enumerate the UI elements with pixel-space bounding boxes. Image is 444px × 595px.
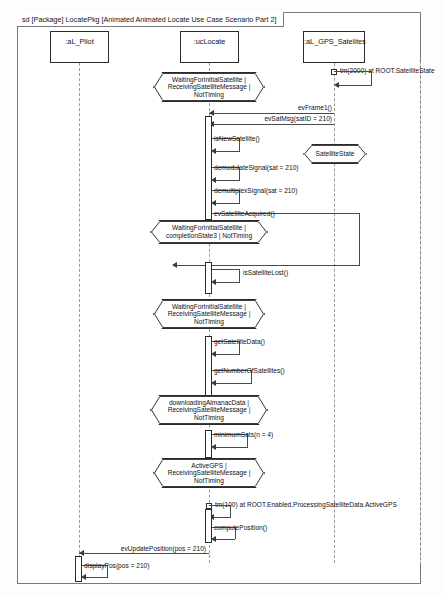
state-label-2: SatelliteState — [308, 150, 363, 158]
message-arrow-demultiplexsignal — [211, 200, 216, 206]
state-box-6: ActiveGPS | ReceivingSatelliteMessage | … — [153, 458, 265, 488]
state-box-4: WaitingForInitialSatellite | ReceivingSa… — [153, 299, 265, 329]
message-line-evsatmsg — [209, 124, 334, 125]
diagram-frame-label: sd [Package] LocatePkg [Animated Animate… — [17, 12, 284, 27]
message-arrow-displaypos — [81, 574, 86, 580]
message-label-minimumsats: minimumSats(n = 4) — [214, 431, 273, 439]
message-label-evsatmsg: evSatMsg(satID = 210) — [214, 115, 332, 123]
timer-return-arrow-tm2000 — [334, 82, 339, 88]
message-label-isnewsatellite: isNewSatellite() — [214, 135, 260, 143]
lifeline-label-uclocate: :ucLocate — [181, 32, 238, 46]
message-line-evframe1 — [209, 113, 334, 114]
lifeline-label-pilot: :aL_Pilot — [51, 32, 108, 46]
message-arrow-evsatelliteacquired — [172, 262, 177, 268]
state-box-2: SatelliteState — [303, 144, 367, 164]
state-box-1: WaitingForInitialSatellite | ReceivingSa… — [153, 72, 265, 102]
message-label-evsatelliteacquired: evSatelliteAcquired() — [214, 210, 275, 218]
lifeline-head-pilot[interactable]: :aL_Pilot — [50, 31, 109, 63]
message-arrow-demodulatesignal — [211, 177, 216, 183]
message-line-evupdateposition — [79, 553, 209, 554]
message-label-evupdateposition: evUpdatePosition(pos = 210) — [84, 545, 206, 553]
message-label-demodulatesignal: demodulateSignal(sat = 210) — [214, 164, 299, 172]
activation-bar-uclocate-3 — [205, 336, 212, 396]
message-arrow-getnumberofsatellites — [211, 380, 216, 386]
message-label-evframe1: evFrame1() — [214, 104, 332, 112]
state-label-3: WaitingForInitialSatellite | completionS… — [158, 224, 260, 239]
state-label-4: WaitingForInitialSatellite | ReceivingSa… — [160, 303, 259, 326]
message-arrow-computeposition — [211, 536, 216, 542]
timer-label-tm100: tm(100) at ROOT.Enabled.ProcessingSatell… — [215, 501, 397, 509]
lifeline-line-gps — [334, 63, 335, 563]
message-label-computeposition: computePosition() — [214, 524, 267, 532]
state-label-6: ActiveGPS | ReceivingSatelliteMessage | … — [160, 462, 259, 485]
message-arrow-issatellitelost — [211, 279, 216, 285]
state-box-5: downloadingAlmanacData | ReceivingSatell… — [150, 395, 268, 425]
message-label-getsatellitedata: getSatelliteData() — [214, 338, 265, 346]
message-label-displaypos: displayPos(pos = 210) — [84, 562, 149, 570]
state-label-5: downloadingAlmanacData | ReceivingSatell… — [160, 399, 259, 422]
message-label-issatellitelost: isSatelliteLost() — [243, 269, 288, 277]
lifeline-head-uclocate[interactable]: :ucLocate — [180, 31, 239, 63]
message-arrow-minimumsats — [211, 444, 216, 450]
message-label-demultiplexsignal: demultiplexSignal(sat = 210) — [214, 187, 297, 195]
lifeline-head-gps[interactable]: :aL_GPS_Satelites — [303, 31, 365, 63]
message-label-getnumberofsatellites: getNumberOfSatellites() — [214, 367, 285, 375]
state-box-3: WaitingForInitialSatellite | completionS… — [150, 220, 268, 244]
timer-symbol-tm2000 — [331, 69, 337, 75]
lifeline-label-gps: :aL_GPS_Satelites — [304, 32, 364, 46]
message-arrow-getsatellitedata — [211, 351, 216, 357]
diagram-right-guide — [420, 63, 421, 563]
activation-bar-uclocate-2 — [205, 262, 212, 294]
lifeline-line-pilot — [79, 63, 80, 563]
state-label-1: WaitingForInitialSatellite | ReceivingSa… — [160, 76, 259, 99]
message-arrow-isnewsatellite — [211, 148, 216, 154]
sequence-diagram-canvas: sd [Package] LocatePkg [Animated Animate… — [0, 0, 444, 595]
